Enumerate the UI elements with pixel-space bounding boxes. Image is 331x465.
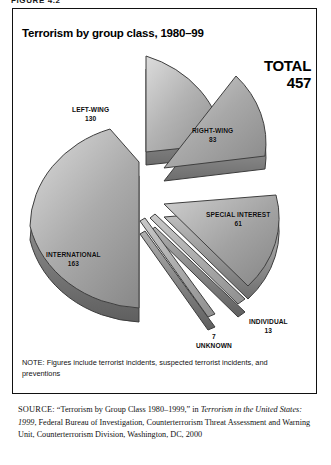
chart-note: NOTE: Figures include terrorist incident… [22,357,297,379]
slice-label-international-name: INTERNATIONAL [46,251,101,258]
pie-chart [12,46,317,346]
chart-title: Terrorism by group class, 1980–99 [22,27,204,39]
source-prefix: SOURCE: [18,405,55,414]
slice-label-unknown-name: UNKNOWN [196,342,232,349]
slice-international [30,129,139,322]
slice-label-unknown-value: 7 [196,333,232,342]
source-quoted-title: “Terrorism by Group Class 1980–1999,” in [57,405,199,414]
slice-label-right-wing: RIGHT-WING 83 [192,127,233,145]
slice-label-right-wing-value: 83 [192,136,233,145]
slice-label-left-wing: LEFT-WING 130 [72,106,109,124]
slice-label-international: INTERNATIONAL 163 [46,251,101,269]
slice-label-special-interest-name: SPECIAL INTEREST [206,211,271,218]
slice-label-left-wing-value: 130 [72,115,109,124]
slice-label-special-interest-value: 61 [206,220,271,229]
figure-header: FIGURE 4.2 [11,0,61,3]
slice-label-individual: INDIVIDUAL 13 [249,318,288,336]
slice-label-individual-name: INDIVIDUAL [249,318,288,325]
slice-label-international-value: 163 [46,260,101,269]
slice-label-unknown: 7 UNKNOWN [196,333,232,351]
slice-label-individual-value: 13 [249,327,288,336]
slice-label-left-wing-name: LEFT-WING [72,106,109,113]
pie-chart-svg [12,46,317,346]
slice-label-special-interest: SPECIAL INTEREST 61 [206,211,271,229]
slice-label-right-wing-name: RIGHT-WING [192,127,233,134]
source-rest: , Federal Bureau of Investigation, Count… [18,418,310,439]
chart-source: SOURCE: “Terrorism by Group Class 1980–1… [18,404,318,442]
